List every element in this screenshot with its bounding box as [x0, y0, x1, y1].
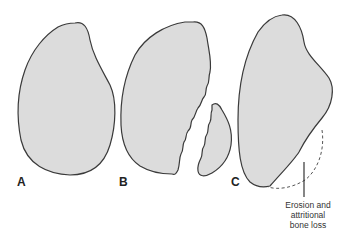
- bone-shape-c: [238, 15, 332, 187]
- bone-shape-b-main: [121, 22, 211, 174]
- panel-label-a: A: [17, 175, 26, 189]
- caption-line-2: attritional: [268, 210, 348, 220]
- panel-label-b: B: [119, 175, 128, 189]
- bone-shape-a: [18, 23, 115, 175]
- bone-shape-b-fragment: [198, 104, 232, 176]
- caption-line-3: bone loss: [268, 220, 348, 230]
- caption-line-1: Erosion and: [268, 200, 348, 210]
- erosion-caption: Erosion and attritional bone loss: [268, 200, 348, 230]
- panel-label-c: C: [231, 175, 240, 189]
